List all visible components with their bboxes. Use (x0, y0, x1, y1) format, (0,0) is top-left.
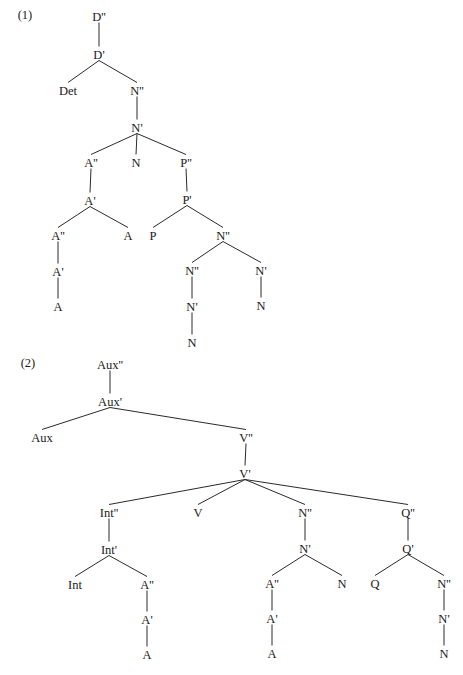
tree-edge (223, 242, 261, 263)
tree-node-label: N'' (185, 264, 199, 278)
tree-node-label: Det (59, 84, 78, 98)
tree-edge (68, 61, 99, 83)
tree-edge (192, 242, 223, 263)
syntax-tree-diagram: (1) D''D'DetN''N'A''NP''A'P'A''APN''A'N'… (0, 0, 463, 675)
example-number-label: (2) (21, 356, 36, 370)
tree-nodes: D''D'DetN''N'A''NP''A'P'A''APN''A'N''N'A… (51, 10, 266, 350)
tree-edge (153, 206, 187, 228)
tree-node-label: N (439, 647, 448, 661)
tree-node-label: A (53, 300, 62, 314)
tree-edge (99, 61, 137, 83)
tree-node-label: N'' (216, 229, 230, 243)
tree-node-label: N'' (298, 506, 312, 520)
tree-edge (305, 555, 342, 576)
tree-node-label: Q'' (401, 506, 415, 520)
tree-node-label: Aux (31, 431, 53, 445)
tree-node-label: A (123, 229, 132, 243)
tree-node-label: V' (239, 467, 250, 481)
tree-node-label: P (150, 229, 157, 243)
tree-node-label: D' (93, 48, 104, 62)
tree-node-label: A'' (265, 577, 279, 591)
tree-edge (187, 206, 223, 228)
tree-node-label: N' (186, 300, 197, 314)
tree-edge (136, 134, 137, 155)
tree-node-label: A'' (51, 229, 65, 243)
tree-node-label: N (337, 577, 346, 591)
tree-node-label: A' (266, 612, 277, 626)
tree-node-label: P'' (180, 156, 191, 170)
tree-edge (408, 555, 444, 576)
tree-edge (90, 207, 128, 228)
tree-node-label: D'' (92, 10, 106, 24)
tree-node-label: Int' (101, 543, 117, 557)
tree-edge (91, 134, 137, 155)
tree-node-label: N (131, 156, 140, 170)
tree-node-label: A (142, 648, 151, 662)
tree-node-label: Q (370, 577, 379, 591)
tree-node-label: A (267, 647, 276, 661)
tree-node-label: N'' (437, 577, 451, 591)
tree-nodes: Aux''Aux'AuxV''V'Int''VN''Q''Int'N'Q'Int… (31, 358, 451, 662)
tree-edge (90, 169, 91, 193)
tree-node-label: N' (255, 264, 266, 278)
tree-edge (186, 169, 187, 192)
tree-node-label: N' (131, 121, 142, 135)
tree-node-label: A'' (140, 578, 154, 592)
tree-edge (245, 480, 305, 505)
tree-edge (245, 444, 246, 466)
tree-node-label: N'' (130, 84, 144, 98)
tree-edge (137, 134, 186, 155)
tree-edge (375, 555, 408, 576)
tree-node-label: N' (299, 542, 310, 556)
tree-edge (198, 480, 245, 505)
tree-node-label: V (193, 506, 202, 520)
tree-node-label: Int (68, 578, 82, 592)
tree-node-label: A' (84, 194, 95, 208)
tree-node-label: A' (52, 265, 63, 279)
tree-edge (58, 207, 90, 228)
tree-node-label: Q' (402, 542, 413, 556)
tree-edge (272, 555, 305, 576)
tree-node-label: Aux'' (97, 358, 123, 372)
tree-node-label: Int'' (100, 506, 118, 520)
tree-example-2: (2) Aux''Aux'AuxV''V'Int''VN''Q''Int'N'Q… (21, 356, 451, 662)
tree-node-label: N (187, 336, 196, 350)
tree-node-label: A'' (84, 156, 98, 170)
tree-node-label: N' (438, 612, 449, 626)
tree-edge (42, 408, 110, 430)
tree-edge (245, 480, 408, 505)
tree-example-1: (1) D''D'DetN''N'A''NP''A'P'A''APN''A'N'… (18, 8, 267, 350)
tree-node-label: Aux' (98, 395, 122, 409)
tree-node-label: N (256, 299, 265, 313)
tree-node-label: A' (141, 613, 152, 627)
example-number-label: (1) (18, 8, 33, 22)
tree-node-label: V'' (239, 431, 253, 445)
tree-edge (109, 556, 147, 577)
tree-edge (75, 556, 109, 577)
tree-edges (58, 23, 261, 335)
tree-edge (109, 480, 245, 505)
tree-edge (110, 408, 246, 430)
tree-node-label: P' (182, 193, 191, 207)
